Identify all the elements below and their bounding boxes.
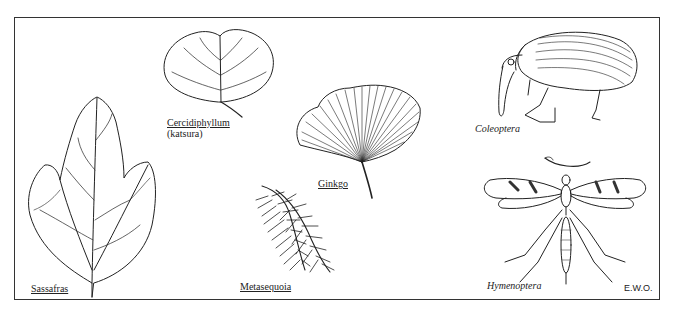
label-cercidiphyllum-common-name: (katsura) xyxy=(167,128,203,140)
label-hymenoptera: Hymenoptera xyxy=(487,280,541,292)
label-sassafras: Sassafras xyxy=(31,283,68,295)
artist-signature: E.W.O. xyxy=(624,283,653,293)
sassafras-leaf-drawing xyxy=(29,97,156,297)
cercidiphyllum-leaf-drawing xyxy=(164,30,273,117)
hymenoptera-wasp-drawing xyxy=(484,157,645,284)
specimen-illustrations xyxy=(0,0,673,316)
ginkgo-leaf-drawing xyxy=(297,85,420,198)
label-metasequoia: Metasequoia xyxy=(240,281,291,293)
label-coleoptera: Coleoptera xyxy=(475,123,520,135)
metasequoia-sprig-drawing xyxy=(256,186,334,272)
label-ginkgo: Ginkgo xyxy=(318,178,348,190)
coleoptera-weevil-drawing xyxy=(499,32,637,122)
